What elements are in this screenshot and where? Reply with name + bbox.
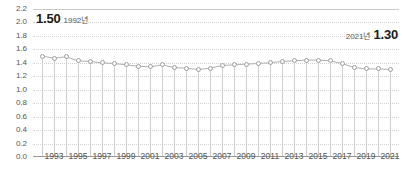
y-axis-tick-label: 0.6 [1,113,27,121]
annotation-start-value: 1.50 [36,11,61,26]
data-point-marker [244,62,249,67]
data-point-marker [256,61,261,66]
data-point-marker [184,66,189,71]
data-point-marker [160,62,165,67]
data-point-marker [328,58,333,63]
data-point-marker [112,61,117,66]
data-point-marker [100,60,105,65]
data-point-marker [76,58,81,63]
data-point-marker [268,60,273,65]
series-line [33,9,399,157]
data-point-marker [280,59,285,64]
data-point-marker [196,67,201,72]
y-axis-tick-label: 1.0 [1,86,27,94]
y-axis-tick-label: 1.2 [1,72,27,80]
annotation-end: 2021년 1.30 [346,27,398,42]
annotation-start-year: 1992년 [64,14,89,25]
y-axis-tick-label: 2.0 [1,18,27,26]
data-point-marker [232,62,237,67]
data-point-marker [220,63,225,68]
data-point-marker [364,66,369,71]
y-axis-tick-label: 2.2 [1,5,27,13]
plot-area: 2.22.01.81.61.41.21.00.80.60.40.20.0 [33,9,399,157]
data-point-marker [148,64,153,69]
data-point-marker [388,67,393,72]
annotation-start: 1.50 1992년 [36,11,88,26]
data-point-marker [292,58,297,63]
data-point-marker [208,66,213,71]
data-point-marker [64,54,69,59]
data-point-marker [124,62,129,67]
y-axis-tick-label: 1.8 [1,32,27,40]
data-point-marker [316,58,321,63]
y-axis-tick-label: 0.4 [1,126,27,134]
y-axis-tick-label: 0.0 [1,153,27,161]
data-point-marker [40,54,45,59]
y-axis-tick-label: 0.8 [1,99,27,107]
annotation-end-year: 2021년 [346,30,371,41]
data-point-marker [88,59,93,64]
annotation-end-value: 1.30 [373,27,398,42]
data-point-marker [376,66,381,71]
data-point-marker [172,65,177,70]
x-axis-tick-label: 2021 [373,151,402,161]
data-point-marker [304,58,309,63]
y-axis-tick-label: 1.6 [1,45,27,53]
data-point-marker [52,56,57,61]
data-point-marker [340,61,345,66]
line-chart: 2.22.01.81.61.41.21.00.80.60.40.20.0 199… [0,0,402,177]
y-axis-tick-label: 1.4 [1,59,27,67]
data-point-marker [352,65,357,70]
data-point-marker [136,64,141,69]
y-axis-tick-label: 0.2 [1,140,27,148]
